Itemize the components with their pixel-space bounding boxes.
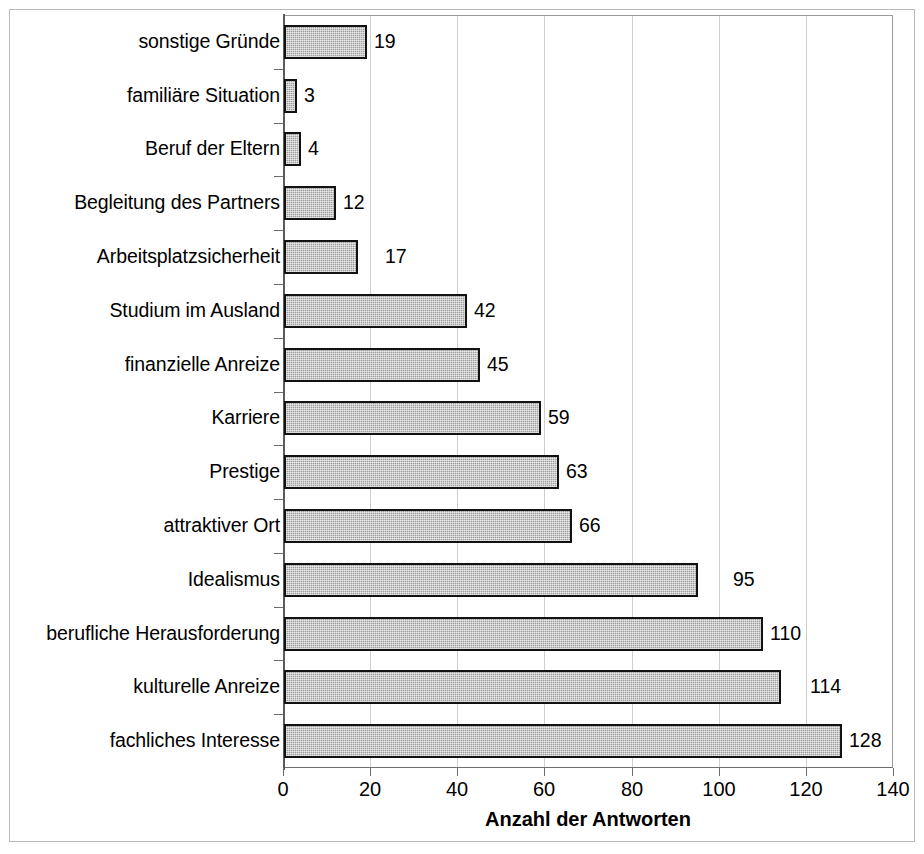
x-tick-label-120: 120 xyxy=(789,778,822,801)
category-label: berufliche Herausforderung xyxy=(46,622,280,645)
bar-value-label: 42 xyxy=(474,299,496,322)
bar-value-label: 128 xyxy=(849,729,882,752)
x-tick-20 xyxy=(370,768,371,776)
bar xyxy=(284,617,763,651)
y-tick-13 xyxy=(274,714,283,715)
bar xyxy=(284,563,698,597)
bar xyxy=(284,294,467,328)
x-tick-140 xyxy=(893,768,894,776)
bar-value-label: 110 xyxy=(770,622,801,645)
bar xyxy=(284,401,541,435)
x-tick-label-80: 80 xyxy=(621,778,643,801)
x-tick-40 xyxy=(457,768,458,776)
x-tick-label-100: 100 xyxy=(702,778,735,801)
bar-value-label: 59 xyxy=(548,406,570,429)
category-label: kulturelle Anreize xyxy=(133,675,280,698)
x-tick-label-60: 60 xyxy=(533,778,555,801)
bar xyxy=(284,79,297,113)
y-tick-5 xyxy=(274,284,283,285)
y-tick-1 xyxy=(274,69,283,70)
bar-value-label: 17 xyxy=(385,245,407,268)
x-tick-label-140: 140 xyxy=(876,778,909,801)
y-tick-10 xyxy=(274,553,283,554)
bar xyxy=(284,240,358,274)
bar-value-label: 3 xyxy=(304,84,315,107)
y-tick-8 xyxy=(274,445,283,446)
gridline-20 xyxy=(370,16,371,767)
category-label: sonstige Gründe xyxy=(138,30,280,53)
x-tick-label-0: 0 xyxy=(277,778,288,801)
bar xyxy=(284,186,336,220)
y-tick-6 xyxy=(274,338,283,339)
category-label: Beruf der Eltern xyxy=(145,137,280,160)
x-tick-100 xyxy=(719,768,720,776)
gridline-120 xyxy=(806,16,807,767)
x-tick-60 xyxy=(544,768,545,776)
y-tick-4 xyxy=(274,230,283,231)
bar xyxy=(284,25,367,59)
bar-value-label: 114 xyxy=(810,675,841,698)
category-label: familiäre Situation xyxy=(127,84,280,107)
bar xyxy=(284,724,842,758)
category-label: fachliches Interesse xyxy=(110,729,280,752)
category-label: Begleitung des Partners xyxy=(74,191,280,214)
bar xyxy=(284,348,480,382)
bar-value-label: 63 xyxy=(566,460,588,483)
gridline-60 xyxy=(544,16,545,767)
category-label: Prestige xyxy=(209,460,280,483)
category-label: attraktiver Ort xyxy=(163,514,280,537)
bar-value-label: 19 xyxy=(374,30,396,53)
y-tick-11 xyxy=(274,607,283,608)
gridline-40 xyxy=(457,16,458,767)
category-label: Idealismus xyxy=(188,568,280,591)
category-label: finanzielle Anreize xyxy=(125,353,280,376)
plot-area xyxy=(283,15,893,768)
bar xyxy=(284,509,572,543)
x-tick-80 xyxy=(632,768,633,776)
category-label: Arbeitsplatzsicherheit xyxy=(97,245,280,268)
x-axis-title: Anzahl der Antworten xyxy=(283,808,893,831)
x-tick-label-20: 20 xyxy=(359,778,381,801)
x-tick-label-40: 40 xyxy=(446,778,468,801)
x-tick-120 xyxy=(806,768,807,776)
x-tick-0 xyxy=(283,768,284,776)
bar-chart: sonstige Gründe19familiäre Situation3Ber… xyxy=(0,0,924,854)
y-tick-7 xyxy=(274,392,283,393)
y-axis-line xyxy=(283,14,285,770)
bar xyxy=(284,670,781,704)
bar-value-label: 95 xyxy=(733,568,755,591)
category-label: Studium im Ausland xyxy=(109,299,280,322)
y-tick-3 xyxy=(274,176,283,177)
gridline-80 xyxy=(632,16,633,767)
y-tick-12 xyxy=(274,660,283,661)
bar-value-label: 4 xyxy=(308,137,319,160)
bar-value-label: 66 xyxy=(579,514,601,537)
y-tick-9 xyxy=(274,499,283,500)
bar-value-label: 12 xyxy=(343,191,365,214)
bar xyxy=(284,132,301,166)
gridline-100 xyxy=(719,16,720,767)
bar xyxy=(284,455,559,489)
y-tick-2 xyxy=(274,123,283,124)
category-label: Karriere xyxy=(211,406,280,429)
bar-value-label: 45 xyxy=(487,353,509,376)
